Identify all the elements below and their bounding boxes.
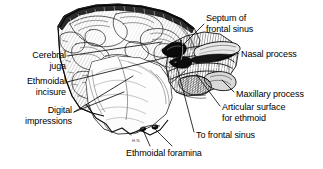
label-maxillary-process: Maxillary process (236, 89, 323, 100)
label-ethmoidal-incisure: Ethmoidal incisure (2, 76, 66, 97)
leader-ethmoidal-foramina (154, 128, 172, 146)
artist-signature: H.N. (132, 138, 141, 143)
label-cerebral-juga: Cerebral juga (6, 50, 66, 71)
label-septum-of-frontal-sinus: Septum of frontal sinus (206, 13, 286, 34)
label-ethmoidal-foramina: Ethmoidal foramina (126, 148, 230, 159)
label-digital-impressions: Digital impressions (0, 105, 72, 126)
label-articular-surface-for-ethmoid: Articular surface for ethmoid (222, 102, 314, 123)
anatomy-figure: Cerebral juga Ethmoidal incisure Digital… (0, 0, 323, 169)
label-to-frontal-sinus: To frontal sinus (196, 130, 280, 141)
label-nasal-process: Nasal process (241, 49, 321, 60)
nasal-and-maxillary-region (162, 32, 240, 98)
leader-ethmoidal-foramina-b (143, 130, 150, 146)
